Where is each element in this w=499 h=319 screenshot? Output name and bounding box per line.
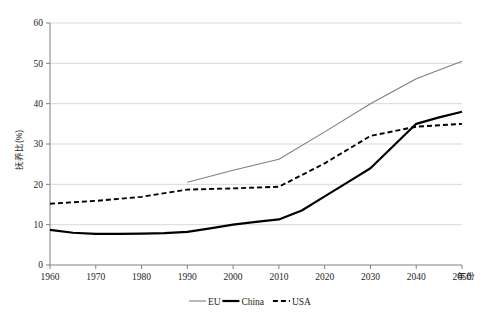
chart-legend: EUChinaUSA — [189, 297, 311, 307]
y-axis-title: 抚养比(%) — [14, 130, 24, 170]
legend-label-usa: USA — [292, 297, 311, 307]
x-tick-label: 2030 — [361, 272, 380, 282]
y-tick-label: 40 — [34, 99, 44, 109]
y-tick-label: 60 — [34, 18, 44, 28]
x-tick-label: 1970 — [86, 272, 105, 282]
x-tick-label: 1960 — [41, 272, 60, 282]
y-tick-label: 20 — [34, 180, 44, 190]
y-tick-label: 50 — [34, 59, 44, 69]
legend-label-eu: EU — [208, 297, 221, 307]
y-tick-label: 30 — [34, 139, 44, 149]
y-tick-label: 10 — [34, 220, 44, 230]
x-tick-label: 2040 — [407, 272, 426, 282]
x-tick-label: 1990 — [178, 272, 197, 282]
x-tick-label: 1980 — [132, 272, 151, 282]
chart-canvas: 6050403020100 19601970198019902000201020… — [0, 0, 499, 319]
x-tick-label: 2020 — [315, 272, 334, 282]
x-axis-title: 年份 — [457, 271, 475, 281]
legend-label-china: China — [241, 297, 264, 307]
dependency-ratio-line-chart: 6050403020100 19601970198019902000201020… — [0, 0, 499, 319]
x-tick-label: 2010 — [269, 272, 288, 282]
y-tick-label: 0 — [38, 260, 43, 270]
x-tick-label: 2000 — [224, 272, 243, 282]
